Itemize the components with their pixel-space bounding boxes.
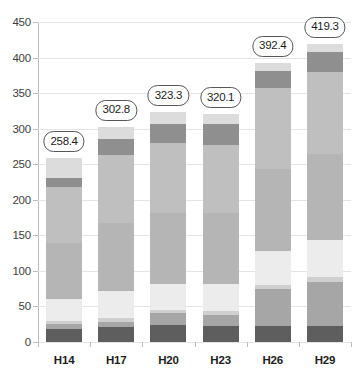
gridline-150 — [38, 235, 351, 236]
y-tick-150 — [33, 235, 38, 236]
x-tick-3 — [247, 342, 248, 347]
bar-segment-H29-6 — [307, 72, 343, 155]
gridline-100 — [38, 271, 351, 272]
bar-segment-H26-7 — [255, 71, 291, 88]
bar-segment-H29-4 — [307, 240, 343, 277]
bar-segment-H26-1 — [255, 326, 291, 342]
y-axis-label-250: 250 — [0, 158, 31, 170]
value-label-H23: 320.1 — [200, 87, 241, 108]
gridline-50 — [38, 306, 351, 307]
bar-segment-H14-8 — [46, 158, 82, 177]
x-axis-label-H20: H20 — [158, 354, 179, 366]
bar-segment-H26-6 — [255, 88, 291, 169]
bar-segment-H20-5 — [150, 213, 186, 283]
bar-H14[interactable] — [46, 158, 82, 342]
value-label-H20: 323.3 — [148, 85, 189, 106]
stacked-bar-chart: 050100150200250300350400450258.4H14302.8… — [0, 0, 359, 378]
bar-segment-H26-8 — [255, 63, 291, 71]
y-tick-200 — [33, 200, 38, 201]
bar-segment-H17-5 — [98, 223, 134, 291]
bar-segment-H17-8 — [98, 127, 134, 139]
plot-area — [38, 22, 351, 342]
bar-segment-H14-7 — [46, 178, 82, 187]
bar-segment-H29-1 — [307, 326, 343, 342]
y-axis-label-300: 300 — [0, 123, 31, 135]
bar-segment-H23-2 — [203, 315, 239, 326]
x-axis-label-H29: H29 — [315, 354, 336, 366]
bar-segment-H17-4 — [98, 291, 134, 318]
y-tick-350 — [33, 93, 38, 94]
value-label-H26: 392.4 — [252, 36, 293, 57]
x-axis-label-H26: H26 — [263, 354, 284, 366]
bar-segment-H26-5 — [255, 169, 291, 251]
bar-segment-H17-1 — [98, 327, 134, 342]
bar-H17[interactable] — [98, 127, 134, 342]
bar-segment-H23-8 — [203, 114, 239, 124]
y-axis-label-400: 400 — [0, 52, 31, 64]
x-tick-0 — [90, 342, 91, 347]
y-tick-250 — [33, 164, 38, 165]
bar-segment-H23-6 — [203, 145, 239, 213]
y-axis-label-50: 50 — [0, 300, 31, 312]
x-tick-1 — [142, 342, 143, 347]
gridline-200 — [38, 200, 351, 201]
y-axis-label-200: 200 — [0, 194, 31, 206]
x-axis-label-H14: H14 — [54, 354, 75, 366]
bar-segment-H20-8 — [150, 112, 186, 123]
value-label-H14: 258.4 — [43, 131, 84, 152]
bar-segment-H20-6 — [150, 143, 186, 214]
y-tick-50 — [33, 306, 38, 307]
y-tick-100 — [33, 271, 38, 272]
x-tick-origin — [38, 342, 39, 347]
x-axis-label-H23: H23 — [210, 354, 231, 366]
bar-segment-H23-7 — [203, 124, 239, 145]
y-axis-label-150: 150 — [0, 229, 31, 241]
bar-segment-H29-5 — [307, 154, 343, 240]
bar-segment-H20-2 — [150, 313, 186, 325]
bar-segment-H26-2 — [255, 289, 291, 327]
x-tick-4 — [299, 342, 300, 347]
bar-segment-H17-6 — [98, 155, 134, 223]
bar-segment-H29-7 — [307, 52, 343, 72]
y-axis-label-100: 100 — [0, 265, 31, 277]
value-label-H29: 419.3 — [304, 17, 345, 38]
bar-segment-H20-4 — [150, 284, 186, 310]
y-axis-label-0: 0 — [0, 336, 31, 348]
bar-segment-H14-5 — [46, 243, 82, 298]
gridline-350 — [38, 93, 351, 94]
y-tick-400 — [33, 58, 38, 59]
bar-segment-H23-5 — [203, 213, 239, 283]
bar-H20[interactable] — [150, 112, 186, 342]
x-tick-2 — [195, 342, 196, 347]
bar-segment-H20-7 — [150, 124, 186, 143]
gridline-400 — [38, 58, 351, 59]
bar-segment-H29-8 — [307, 44, 343, 52]
y-axis-label-450: 450 — [0, 16, 31, 28]
bar-segment-H29-2 — [307, 282, 343, 326]
y-tick-300 — [33, 129, 38, 130]
bar-H26[interactable] — [255, 63, 291, 342]
bar-segment-H14-1 — [46, 329, 82, 343]
bar-H29[interactable] — [307, 44, 343, 342]
bar-segment-H23-4 — [203, 284, 239, 312]
value-label-H17: 302.8 — [96, 100, 137, 121]
bar-H23[interactable] — [203, 114, 239, 342]
gridline-250 — [38, 164, 351, 165]
y-tick-450 — [33, 22, 38, 23]
bar-segment-H20-1 — [150, 325, 186, 342]
gridline-300 — [38, 129, 351, 130]
bar-segment-H14-6 — [46, 187, 82, 243]
x-axis-label-H17: H17 — [106, 354, 127, 366]
bar-segment-H26-4 — [255, 251, 291, 285]
y-axis-label-350: 350 — [0, 87, 31, 99]
bar-segment-H23-1 — [203, 326, 239, 342]
x-tick-5 — [351, 342, 352, 347]
bar-segment-H14-4 — [46, 299, 82, 321]
bar-segment-H17-7 — [98, 139, 134, 155]
